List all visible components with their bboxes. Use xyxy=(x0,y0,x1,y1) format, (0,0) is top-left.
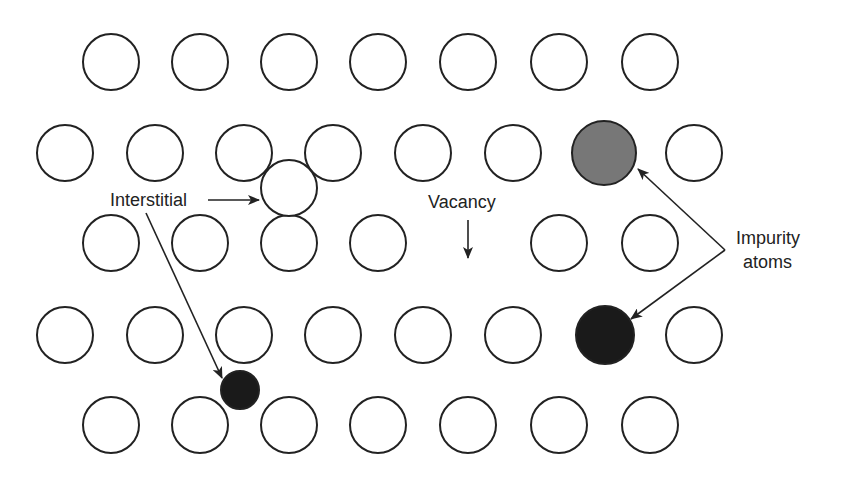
substitutional-impurity-atom-small xyxy=(576,306,634,364)
lattice-atoms xyxy=(37,34,722,453)
lattice-atom xyxy=(261,215,317,271)
lattice-atom xyxy=(666,307,722,363)
lattice-atom xyxy=(305,307,361,363)
impurity-atoms-label-line1: Impurity xyxy=(736,228,800,249)
lattice-atom xyxy=(531,215,587,271)
lattice-atom xyxy=(350,397,406,453)
lattice-atom xyxy=(622,215,678,271)
lattice-atom xyxy=(127,307,183,363)
lattice-atom xyxy=(440,34,496,90)
lattice-atom xyxy=(83,397,139,453)
lattice-atom xyxy=(485,125,541,181)
lattice-atom xyxy=(83,34,139,90)
lattice-atom xyxy=(261,34,317,90)
vacancy-label: Vacancy xyxy=(428,192,496,213)
self-interstitial-atom xyxy=(261,160,317,216)
lattice-atom xyxy=(622,397,678,453)
lattice-atom xyxy=(216,125,272,181)
lattice-atom xyxy=(172,215,228,271)
lattice-atom xyxy=(531,34,587,90)
lattice-atom xyxy=(37,307,93,363)
lattice-atom xyxy=(37,125,93,181)
lattice-atom xyxy=(350,215,406,271)
point-defects-diagram: Interstitial Vacancy Impurity atoms xyxy=(0,0,844,478)
lattice-atom xyxy=(83,215,139,271)
lattice-atom xyxy=(531,397,587,453)
lattice-atom xyxy=(622,34,678,90)
lattice-atom xyxy=(395,125,451,181)
impurity-atoms-label-line2: atoms xyxy=(743,252,792,273)
lattice-atom xyxy=(485,307,541,363)
lattice-atom xyxy=(127,125,183,181)
lattice-atom xyxy=(395,307,451,363)
interstitial-impurity-atom xyxy=(221,371,259,409)
interstitial-label: Interstitial xyxy=(110,190,187,211)
substitutional-impurity-atom-large xyxy=(572,121,636,185)
lattice-atom xyxy=(216,307,272,363)
lattice-atom xyxy=(261,397,317,453)
lattice-canvas xyxy=(0,0,844,478)
lattice-atom xyxy=(172,397,228,453)
lattice-atom xyxy=(666,125,722,181)
lattice-atom xyxy=(172,34,228,90)
lattice-atom xyxy=(350,34,406,90)
lattice-atom xyxy=(440,397,496,453)
